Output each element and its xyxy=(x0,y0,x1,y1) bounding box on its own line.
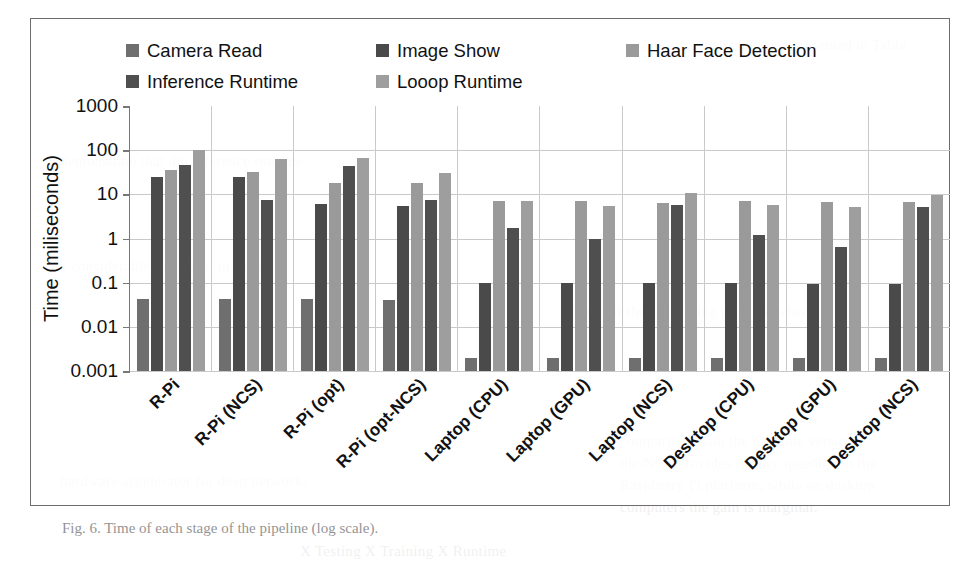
y-axis-tick-label: 1000 xyxy=(76,95,118,117)
bar[interactable] xyxy=(247,172,259,371)
x-axis-label: R-Pi xyxy=(146,375,184,413)
bar[interactable] xyxy=(383,300,395,371)
bar[interactable] xyxy=(137,299,149,371)
legend-label: Haar Face Detection xyxy=(647,40,817,62)
bar[interactable] xyxy=(275,159,287,371)
bar[interactable] xyxy=(439,173,451,371)
legend-item-0[interactable]: Camera Read xyxy=(126,40,376,62)
bar-groups xyxy=(130,106,950,371)
bar[interactable] xyxy=(233,177,245,371)
legend-item-3[interactable]: Inference Runtime xyxy=(126,71,376,93)
legend-swatch-icon xyxy=(626,44,639,57)
bar[interactable] xyxy=(165,170,177,371)
bar[interactable] xyxy=(931,195,943,371)
bar[interactable] xyxy=(671,205,683,371)
bar[interactable] xyxy=(835,247,847,371)
y-axis-tick xyxy=(123,239,130,241)
plot-area: 10001001010.10.010.001 xyxy=(129,106,950,372)
bar[interactable] xyxy=(193,150,205,371)
legend-item-2[interactable]: Haar Face Detection xyxy=(626,40,906,62)
bar[interactable] xyxy=(575,201,587,371)
y-axis-tick-label: 100 xyxy=(86,139,118,161)
bar[interactable] xyxy=(397,206,409,371)
bar[interactable] xyxy=(793,358,805,371)
bar[interactable] xyxy=(521,201,533,371)
y-axis-title: Time (miliseconds) xyxy=(39,106,65,371)
y-axis-tick xyxy=(123,194,130,196)
bar[interactable] xyxy=(179,165,191,371)
bar[interactable] xyxy=(739,201,751,371)
bar[interactable] xyxy=(301,299,313,371)
legend-label: Camera Read xyxy=(147,40,262,62)
bar[interactable] xyxy=(903,202,915,371)
bar[interactable] xyxy=(629,358,641,371)
bar[interactable] xyxy=(357,158,369,371)
y-axis-tick-label: 1 xyxy=(107,228,118,250)
bar[interactable] xyxy=(889,284,901,371)
bar[interactable] xyxy=(657,203,669,371)
legend-swatch-icon xyxy=(376,75,389,88)
bar[interactable] xyxy=(329,183,341,371)
bar-group xyxy=(212,106,294,371)
bar[interactable] xyxy=(547,358,559,371)
legend-label: Image Show xyxy=(397,40,500,62)
bar[interactable] xyxy=(767,205,779,371)
bar[interactable] xyxy=(603,206,615,371)
bar[interactable] xyxy=(589,239,601,371)
bar[interactable] xyxy=(465,358,477,371)
y-axis-tick xyxy=(123,106,130,108)
bar-group xyxy=(130,106,212,371)
bar[interactable] xyxy=(875,358,887,371)
bar[interactable] xyxy=(821,202,833,371)
bar-group xyxy=(376,106,458,371)
bar[interactable] xyxy=(725,283,737,371)
y-axis-tick-label: 0.01 xyxy=(81,316,118,338)
legend-swatch-icon xyxy=(126,44,139,57)
legend-label: Looop Runtime xyxy=(397,71,522,93)
bar-group xyxy=(705,106,787,371)
bar-group xyxy=(458,106,540,371)
y-axis-tick xyxy=(123,150,130,152)
y-axis-tick-label: 0.001 xyxy=(70,360,118,382)
bar[interactable] xyxy=(315,204,327,371)
bar[interactable] xyxy=(479,283,491,371)
bar[interactable] xyxy=(411,183,423,371)
bar[interactable] xyxy=(507,228,519,371)
chart-legend: Camera ReadImage ShowHaar Face Detection… xyxy=(126,35,916,97)
legend-swatch-icon xyxy=(126,75,139,88)
legend-label: Inference Runtime xyxy=(147,71,298,93)
figure-caption: Fig. 6. Time of each stage of the pipeli… xyxy=(62,520,378,537)
legend-item-1[interactable]: Image Show xyxy=(376,40,626,62)
bar[interactable] xyxy=(685,193,697,371)
legend-swatch-icon xyxy=(376,44,389,57)
y-axis-tick-label: 0.1 xyxy=(92,272,118,294)
bar[interactable] xyxy=(493,201,505,371)
figure-frame: Camera ReadImage ShowHaar Face Detection… xyxy=(30,18,950,506)
bleed-text: X Testing X Training X Runtime xyxy=(300,540,506,562)
x-axis-label-cell: Desktop (NCS) xyxy=(867,373,949,503)
bar[interactable] xyxy=(561,283,573,371)
bar[interactable] xyxy=(643,283,655,371)
y-axis-tick xyxy=(123,327,130,329)
bar[interactable] xyxy=(261,200,273,371)
legend-item-4[interactable]: Looop Runtime xyxy=(376,71,626,93)
y-axis-title-text: Time (miliseconds) xyxy=(41,155,64,322)
bar[interactable] xyxy=(151,177,163,371)
bar[interactable] xyxy=(219,299,231,371)
bar-group xyxy=(540,106,622,371)
bar[interactable] xyxy=(711,358,723,371)
y-axis-tick xyxy=(123,283,130,285)
gridline-horizontal xyxy=(130,371,950,372)
bar-group xyxy=(869,106,950,371)
bar[interactable] xyxy=(807,284,819,371)
x-axis-labels: R-PiR-Pi (NCS)R-Pi (opt)R-Pi (opt-NCS)La… xyxy=(129,373,949,503)
x-axis-label-cell: R-Pi (NCS) xyxy=(211,373,293,503)
bar[interactable] xyxy=(849,207,861,371)
bar-group xyxy=(787,106,869,371)
y-axis-tick-label: 10 xyxy=(97,183,118,205)
bar[interactable] xyxy=(343,166,355,371)
bar-group xyxy=(623,106,705,371)
bar[interactable] xyxy=(753,235,765,371)
bar[interactable] xyxy=(425,200,437,371)
bar[interactable] xyxy=(917,207,929,371)
